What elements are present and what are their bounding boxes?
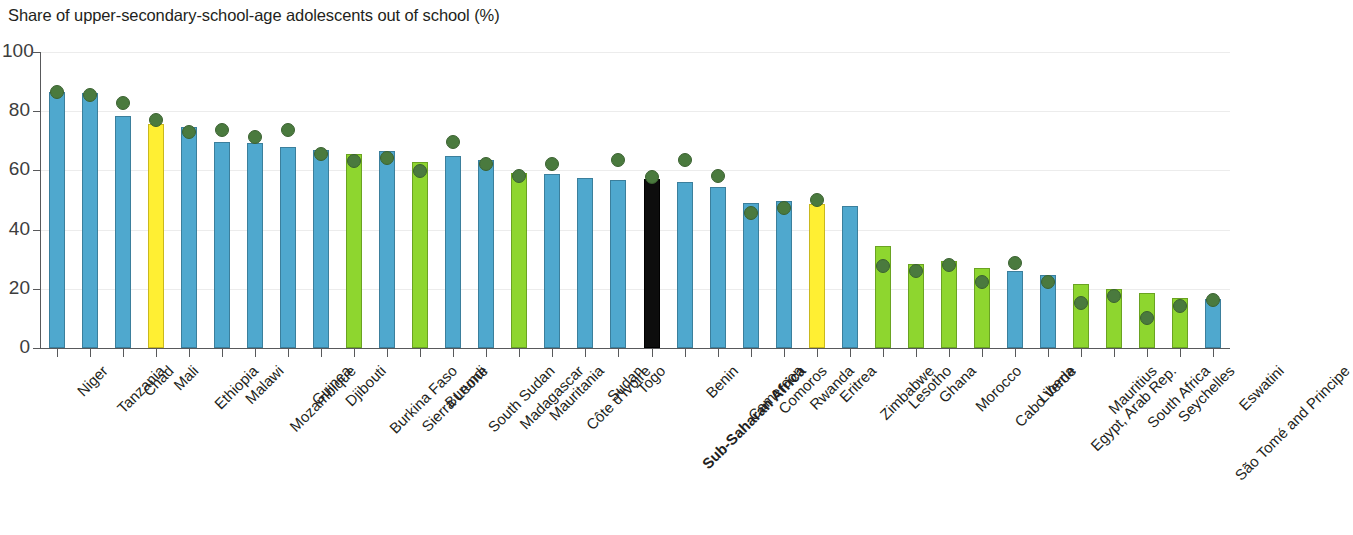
data-point-marker[interactable] [1074,296,1088,310]
bar[interactable] [280,147,296,348]
bar[interactable] [809,204,825,348]
data-point-marker[interactable] [347,154,361,168]
data-point-marker[interactable] [413,164,427,178]
data-point-marker[interactable] [942,258,956,272]
data-point-marker[interactable] [182,125,196,139]
data-point-marker[interactable] [248,130,262,144]
bar-column[interactable] [181,52,197,348]
bar[interactable] [49,92,65,348]
data-point-marker[interactable] [215,123,229,137]
bar-column[interactable] [379,52,395,348]
x-tick-mark [850,348,851,357]
data-point-marker[interactable] [909,264,923,278]
data-point-marker[interactable] [380,151,394,165]
bar-column[interactable] [1007,52,1023,348]
bar-column[interactable] [148,52,164,348]
bar-column[interactable] [610,52,626,348]
bar-column[interactable] [247,52,263,348]
bar-column[interactable] [1139,52,1155,348]
bar[interactable] [610,180,626,348]
data-point-marker[interactable] [479,157,493,171]
bar[interactable] [842,206,858,348]
data-point-marker[interactable] [512,169,526,183]
bar-column[interactable] [974,52,990,348]
bar[interactable] [412,162,428,348]
bar[interactable] [577,178,593,348]
bar-column[interactable] [214,52,230,348]
bar-column[interactable] [412,52,428,348]
bar-column[interactable] [677,52,693,348]
data-point-marker[interactable] [1008,256,1022,270]
data-point-marker[interactable] [678,153,692,167]
bar[interactable] [214,142,230,348]
bar[interactable] [313,150,329,348]
data-point-marker[interactable] [1140,311,1154,325]
bar[interactable] [743,203,759,348]
bar[interactable] [445,156,461,348]
bar-column[interactable] [644,52,660,348]
bar-column[interactable] [743,52,759,348]
bar[interactable] [941,261,957,348]
bar[interactable] [478,160,494,348]
data-point-marker[interactable] [876,259,890,273]
bar[interactable] [1073,284,1089,348]
data-point-marker[interactable] [645,170,659,184]
bar-column[interactable] [1040,52,1056,348]
data-point-marker[interactable] [611,153,625,167]
bar-column[interactable] [908,52,924,348]
data-point-marker[interactable] [975,275,989,289]
data-point-marker[interactable] [777,201,791,215]
bar-column[interactable] [842,52,858,348]
bar[interactable] [511,173,527,348]
data-point-marker[interactable] [446,135,460,149]
bar-column[interactable] [875,52,891,348]
x-tick-mark [1114,348,1115,357]
data-point-marker[interactable] [1206,293,1220,307]
bar-column[interactable] [577,52,593,348]
bar-column[interactable] [544,52,560,348]
bar[interactable] [115,116,131,348]
bar-column[interactable] [1106,52,1122,348]
data-point-marker[interactable] [810,193,824,207]
bar[interactable] [82,93,98,348]
x-tick-mark [1213,348,1214,357]
data-point-marker[interactable] [149,113,163,127]
bar-column[interactable] [478,52,494,348]
data-point-marker[interactable] [711,169,725,183]
data-point-marker[interactable] [1173,299,1187,313]
x-tick-mark [123,348,124,357]
bar[interactable] [379,151,395,348]
bar[interactable] [644,179,660,348]
data-point-marker[interactable] [744,206,758,220]
bar-column[interactable] [941,52,957,348]
bar-column[interactable] [313,52,329,348]
data-point-marker[interactable] [314,147,328,161]
bar[interactable] [1007,271,1023,348]
bar[interactable] [776,201,792,348]
bar-column[interactable] [710,52,726,348]
data-point-marker[interactable] [116,96,130,110]
bar-column[interactable] [445,52,461,348]
x-axis-label: Eswatini [1236,362,1288,414]
bar[interactable] [710,187,726,348]
bar[interactable] [148,124,164,348]
data-point-marker[interactable] [50,85,64,99]
bar[interactable] [346,154,362,348]
bar-column[interactable] [776,52,792,348]
bar-column[interactable] [280,52,296,348]
x-tick-mark [189,348,190,357]
bar[interactable] [544,174,560,348]
x-axis-labels: NigerTanzaniaChadMaliEthiopiaMalawiMozam… [40,362,1230,535]
bar-column[interactable] [511,52,527,348]
data-point-marker[interactable] [1041,275,1055,289]
bar[interactable] [677,182,693,348]
data-point-marker[interactable] [83,88,97,102]
x-tick-mark [486,348,487,357]
bar[interactable] [247,143,263,348]
data-point-marker[interactable] [1107,289,1121,303]
x-tick-mark [1015,348,1016,357]
data-point-marker[interactable] [545,157,559,171]
bar-column[interactable] [346,52,362,348]
bar[interactable] [181,127,197,348]
data-point-marker[interactable] [281,123,295,137]
